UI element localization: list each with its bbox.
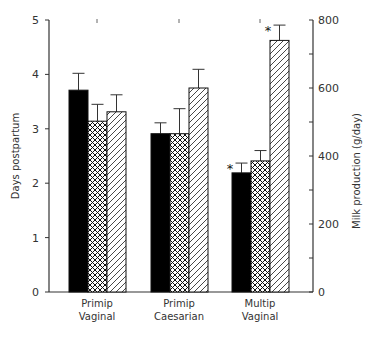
right-tick-label: 200 — [318, 218, 339, 231]
bar-solid — [232, 173, 251, 292]
significance-star: * — [227, 161, 234, 176]
bar-solid — [69, 90, 88, 292]
right-tick-label: 0 — [318, 286, 325, 299]
left-tick-label: 3 — [32, 123, 39, 136]
left-tick-label: 1 — [32, 232, 39, 245]
category-label: Vaginal — [79, 311, 116, 322]
left-axis-title: Days postpartum — [10, 113, 21, 199]
left-tick-label: 4 — [32, 68, 39, 81]
category-label: Caesarian — [154, 311, 204, 322]
right-tick-label: 400 — [318, 150, 339, 163]
bar-crosshatch — [170, 134, 189, 292]
right-tick-label: 800 — [318, 14, 339, 27]
right-axis-title: Milk production (g/day) — [351, 113, 362, 229]
bar-solid — [151, 134, 170, 292]
bar-diagonal — [270, 40, 289, 292]
category-label: Multip — [245, 298, 276, 309]
labels: PrimipVaginalPrimipCaesarianMultipVagina… — [79, 298, 279, 322]
category-label: Primip — [81, 298, 113, 309]
left-tick-label: 0 — [32, 286, 39, 299]
bars: ** — [69, 23, 289, 292]
bar-crosshatch — [88, 121, 107, 292]
left-tick-label: 2 — [32, 177, 39, 190]
left-tick-label: 5 — [32, 14, 39, 27]
right-tick-label: 600 — [318, 82, 339, 95]
bar-crosshatch — [251, 161, 270, 292]
category-label: Primip — [163, 298, 195, 309]
category-label: Vaginal — [242, 311, 279, 322]
bar-diagonal — [189, 88, 208, 292]
bar-chart: 0123450200400600800Days postpartumMilk p… — [0, 0, 370, 337]
bar-diagonal — [107, 112, 126, 292]
significance-star: * — [265, 23, 272, 38]
